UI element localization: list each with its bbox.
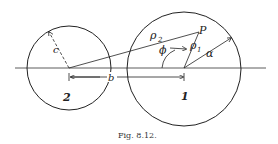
radius-c-line bbox=[49, 32, 69, 68]
label-phi: ϕ bbox=[159, 44, 167, 57]
phi-arrow bbox=[170, 48, 186, 49]
label-rho1: ρ bbox=[189, 39, 197, 52]
sphere-1-circle bbox=[127, 12, 241, 126]
figure-diagram: b c P ρ 2 ρ 1 ϕ α 2 1 Fig. 8.12. bbox=[0, 0, 278, 144]
rho2-line bbox=[69, 32, 199, 68]
label-b: b bbox=[108, 72, 114, 83]
figure-caption: Fig. 8.12. bbox=[118, 131, 157, 140]
label-rho2: ρ bbox=[149, 29, 157, 42]
label-rho2-sub: 2 bbox=[157, 36, 163, 44]
label-circle-1: 1 bbox=[181, 90, 189, 103]
label-a: α bbox=[206, 47, 214, 60]
label-rho1-sub: 1 bbox=[197, 46, 201, 54]
label-c: c bbox=[53, 44, 59, 55]
label-point-p: P bbox=[198, 24, 207, 37]
label-circle-2: 2 bbox=[62, 91, 71, 104]
